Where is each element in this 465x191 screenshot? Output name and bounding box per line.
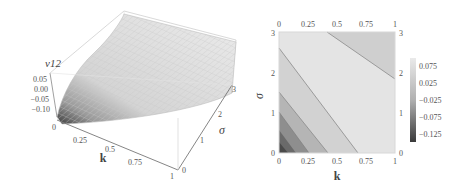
z-tick-label: 0.00 xyxy=(34,85,48,94)
z-axis-line xyxy=(50,73,57,117)
contour-plot: 0 0.25 0.5 0.75 1 0 0.25 0.5 0.75 1 0 1 … xyxy=(252,20,442,183)
k-axis-label: k xyxy=(334,169,341,183)
right-tick-label: 3 xyxy=(399,29,403,38)
z-axis-label: v12 xyxy=(45,57,61,69)
top-tick-label: 0.5 xyxy=(332,20,342,29)
sigma-tick-label: 2 xyxy=(218,110,222,119)
left-tick-label: 0 xyxy=(271,149,275,158)
colorbar-tick-label: −0.075 xyxy=(419,113,442,122)
top-tick-label: 0 xyxy=(277,20,281,29)
bottom-tick-label: 0.25 xyxy=(301,157,315,166)
k-axis-line xyxy=(57,120,178,170)
sigma-axis-label: σ xyxy=(252,92,266,99)
k-tick-label: 0.5 xyxy=(105,145,115,154)
left-tick-label: 1 xyxy=(271,109,275,118)
z-tick-label: −0.10 xyxy=(31,105,50,114)
colorbar xyxy=(410,58,416,142)
z-tick-label: −0.05 xyxy=(30,95,49,104)
colorbar-tick-label: 0.025 xyxy=(419,79,437,88)
top-tick-label: 1 xyxy=(393,20,397,29)
left-tick-label: 2 xyxy=(271,69,275,78)
top-tick-label: 0.25 xyxy=(301,20,315,29)
colorbar-tick-label: −0.025 xyxy=(419,96,442,105)
k-axis-label: k xyxy=(100,151,107,165)
bottom-tick-label: 0.75 xyxy=(359,157,373,166)
sigma-tick-label: 0 xyxy=(182,166,186,175)
top-tick-label: 0.75 xyxy=(359,20,373,29)
bottom-tick-label: 1 xyxy=(393,157,397,166)
z-tick-label: 0.05 xyxy=(33,75,47,84)
bottom-tick-label: 0 xyxy=(277,157,281,166)
k-tick-label: 0.25 xyxy=(73,136,87,145)
right-tick-label: 0 xyxy=(399,149,403,158)
sigma-tick-label: 1 xyxy=(200,136,204,145)
surface-plot-3d: 0.05 0.00 −0.05 −0.10 v12 0 0.25 0.5 0.7… xyxy=(30,11,236,181)
right-tick-label: 2 xyxy=(399,69,403,78)
k-tick-label: 1 xyxy=(170,172,174,181)
k-tick-label: 0.75 xyxy=(128,158,142,167)
left-tick-label: 3 xyxy=(271,29,275,38)
k-tick-label: 0 xyxy=(52,123,56,132)
figure: 0.05 0.00 −0.05 −0.10 v12 0 0.25 0.5 0.7… xyxy=(0,0,465,191)
colorbar-tick-label: −0.125 xyxy=(419,130,442,139)
bottom-tick-label: 0.5 xyxy=(332,157,342,166)
right-tick-label: 1 xyxy=(399,109,403,118)
colorbar-tick-label: 0.075 xyxy=(419,62,437,71)
sigma-axis-label: σ xyxy=(219,123,226,137)
sigma-tick-label: 3 xyxy=(232,85,236,94)
